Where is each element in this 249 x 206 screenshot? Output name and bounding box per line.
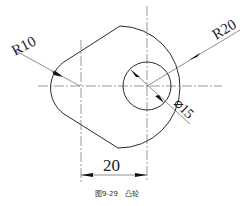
dim20-arrow-left (81, 173, 93, 177)
r10-label: R10 (9, 33, 39, 59)
r10-leader (14, 50, 80, 86)
cam-outline (51, 26, 180, 148)
dia15-label: ⌀15 (171, 96, 197, 122)
dim20-label: 20 (103, 156, 120, 175)
cam-drawing: R10 R20 ⌀15 20 图9-29 凸轮 (0, 0, 249, 206)
figure-caption: 图9-29 凸轮 (95, 189, 139, 198)
dim20-arrow-right (135, 173, 147, 177)
r20-label: R20 (209, 16, 239, 43)
r20-arrowhead (189, 53, 200, 60)
